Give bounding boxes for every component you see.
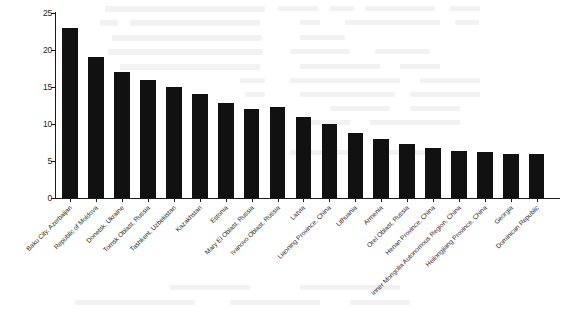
y-tick-label: 10 (43, 119, 52, 129)
x-tick-mark (407, 198, 408, 202)
bar (296, 117, 312, 198)
bar (270, 107, 286, 198)
x-tick-mark (252, 198, 253, 202)
bar (348, 133, 364, 198)
x-tick-mark (70, 198, 71, 202)
bar (88, 57, 104, 198)
bar (244, 109, 260, 198)
x-tick-mark (355, 198, 356, 202)
x-tick-mark (537, 198, 538, 202)
plot-area: 0510152025 (56, 13, 560, 198)
y-tick-label: 25 (43, 8, 52, 18)
x-tick-mark (511, 198, 512, 202)
x-axis-label: Donetsk, Ukraine (0, 204, 125, 327)
bar (503, 154, 519, 198)
bar (114, 72, 130, 198)
bar (218, 103, 234, 198)
bar (425, 148, 441, 198)
x-tick-mark (329, 198, 330, 202)
x-tick-mark (148, 198, 149, 202)
bar (62, 28, 78, 198)
bar (373, 139, 389, 198)
bar (166, 87, 182, 198)
x-tick-mark (226, 198, 227, 202)
y-tick-label: 0 (47, 193, 52, 203)
bar (529, 154, 545, 198)
y-tick-label: 15 (43, 82, 52, 92)
x-tick-mark (278, 198, 279, 202)
bar (192, 94, 208, 198)
bar (477, 152, 493, 198)
x-tick-mark (381, 198, 382, 202)
x-tick-mark (122, 198, 123, 202)
x-tick-mark (459, 198, 460, 202)
bar (399, 144, 415, 198)
bar (451, 151, 467, 198)
y-tick-label: 20 (43, 45, 52, 55)
x-tick-mark (174, 198, 175, 202)
x-tick-mark (96, 198, 97, 202)
x-tick-mark (485, 198, 486, 202)
bar (140, 80, 156, 198)
bar-chart-figure: 0510152025 Baku City, AzerbaijanRepublic… (0, 0, 564, 327)
x-tick-mark (433, 198, 434, 202)
x-tick-mark (200, 198, 201, 202)
x-tick-mark (303, 198, 304, 202)
y-tick-label: 5 (47, 156, 52, 166)
bar (322, 124, 338, 198)
